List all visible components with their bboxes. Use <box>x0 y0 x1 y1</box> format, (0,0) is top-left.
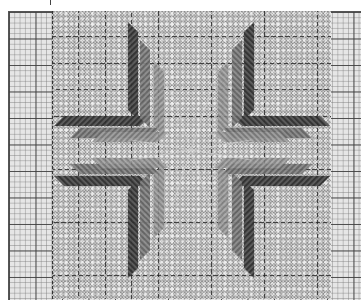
eight-pointed-star-motif <box>0 0 360 299</box>
